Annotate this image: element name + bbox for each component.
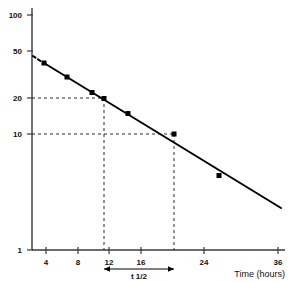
data-point-2 — [65, 75, 70, 80]
y-tick-label-100: 100 — [9, 11, 23, 20]
y-tick-label-1: 1 — [18, 246, 23, 255]
y-tick-label-20: 20 — [13, 94, 22, 103]
x-tick-label-16: 16 — [137, 258, 146, 267]
data-point-7 — [217, 173, 222, 178]
data-point-3 — [90, 90, 95, 95]
half-life-arrow-left-head — [104, 266, 110, 272]
data-point-1 — [42, 61, 47, 66]
x-axis-tick-labels: 4 8 12 16 24 36 — [44, 258, 283, 267]
y-tick-label-10: 10 — [13, 130, 22, 139]
half-life-label: t 1/2 — [131, 272, 148, 281]
data-point-markers — [42, 61, 222, 179]
half-life-annotation: t 1/2 — [104, 266, 174, 281]
x-tick-label-8: 8 — [76, 258, 81, 267]
chart-canvas: 100 50 20 10 1 4 8 12 16 24 36 — [0, 0, 296, 282]
data-point-6 — [172, 132, 177, 137]
x-axis-title: Time (hours) — [234, 269, 285, 279]
guide-lines — [32, 98, 175, 250]
half-life-arrow-right-head — [168, 266, 174, 272]
data-point-4 — [102, 96, 107, 101]
data-point-5 — [126, 111, 131, 116]
concentration-decay-line — [44, 63, 281, 208]
y-tick-label-50: 50 — [13, 47, 22, 56]
x-tick-label-24: 24 — [200, 258, 209, 267]
y-axis-tick-labels: 100 50 20 10 1 — [9, 11, 23, 255]
x-tick-label-4: 4 — [44, 258, 49, 267]
x-tick-label-36: 36 — [274, 258, 283, 267]
semi-log-concentration-chart: 100 50 20 10 1 4 8 12 16 24 36 — [0, 0, 296, 282]
x-tick-label-12: 12 — [105, 258, 114, 267]
